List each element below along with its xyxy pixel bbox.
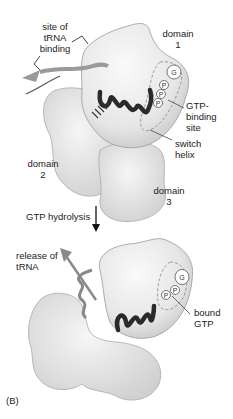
label-line: GTP- [186, 100, 230, 111]
panel-label: (B) [6, 395, 26, 406]
label-line: tRNA [16, 261, 66, 272]
label-line: domain [20, 158, 66, 169]
label-line: domain [160, 28, 196, 39]
svg-text:G: G [171, 69, 176, 76]
label-line: bound [194, 307, 230, 318]
label-line: site [186, 122, 230, 133]
svg-text:P: P [162, 82, 167, 89]
label-domain1: domain 1 [160, 28, 196, 50]
svg-text:P: P [164, 292, 169, 299]
label-line: tRNA [34, 32, 76, 43]
ef-tu-diagram: GPPP GPP [0, 0, 233, 419]
svg-text:P: P [159, 91, 164, 98]
label-domain3: domain 3 [146, 185, 192, 207]
label-gtp-hydrolysis: GTP hydrolysis [26, 211, 96, 222]
label-line: 1 [160, 39, 196, 50]
label-line: GTP [194, 318, 230, 329]
label-line: helix [175, 149, 215, 160]
label-line: switch [175, 138, 215, 149]
svg-text:P: P [173, 287, 178, 294]
svg-text:P: P [156, 100, 161, 107]
label-release-of-trna: release of tRNA [16, 250, 66, 272]
label-line: release of [16, 250, 66, 261]
label-domain2: domain 2 [20, 158, 66, 180]
label-line: 3 [146, 196, 192, 207]
label-line: binding [34, 43, 76, 54]
domain3-shape [99, 142, 166, 222]
label-trna-binding-site: site of tRNA binding [34, 21, 76, 54]
label-bound-gtp: bound GTP [194, 307, 230, 329]
label-line: 2 [20, 169, 66, 180]
label-gtp-binding-site: GTP- binding site [186, 100, 230, 133]
label-line: domain [146, 185, 192, 196]
label-switch-helix: switch helix [175, 138, 215, 160]
label-line: site of [34, 21, 76, 32]
svg-text:G: G [179, 274, 184, 281]
label-line: binding [186, 111, 230, 122]
